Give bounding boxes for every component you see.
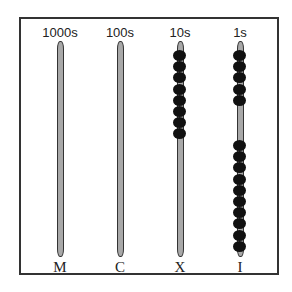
bead [233,50,246,61]
bead [233,230,246,241]
bead [173,50,186,61]
bead [233,185,246,196]
place-label-10s: 10s [150,25,210,40]
column-ones: 1s I [210,19,270,273]
abacus-frame: 1000s M 100s C 10s X 1s I [19,17,279,275]
place-label-1s: 1s [210,25,270,40]
bead [173,106,186,117]
bead [173,95,186,106]
bead [173,72,186,83]
roman-label-m: M [30,259,90,276]
bead [173,117,186,128]
bead [233,151,246,162]
bead [233,241,246,252]
bead [233,95,246,106]
bead [173,128,186,139]
roman-label-i: I [210,259,270,276]
bead [173,84,186,95]
rod-hundreds [117,41,124,257]
bead [173,61,186,72]
bead [233,196,246,207]
bead [233,84,246,95]
bead [233,72,246,83]
bead [233,218,246,229]
column-hundreds: 100s C [90,19,150,273]
bead [233,162,246,173]
column-tens: 10s X [150,19,210,273]
column-thousands: 1000s M [30,19,90,273]
roman-label-x: X [150,259,210,276]
rod-thousands [57,41,64,257]
place-label-1000s: 1000s [30,25,90,40]
bead [233,140,246,151]
bead [233,207,246,218]
bead [233,61,246,72]
place-label-100s: 100s [90,25,150,40]
bead [233,174,246,185]
roman-label-c: C [90,259,150,276]
